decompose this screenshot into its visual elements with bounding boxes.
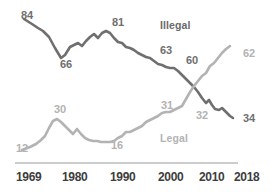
x-tick-2018: 2018	[234, 171, 260, 183]
value-label-illegal-2018: 34	[243, 113, 255, 124]
x-tick-1980: 1980	[62, 171, 88, 183]
x-tick-1969: 1969	[16, 171, 42, 183]
value-label-illegal-1969: 84	[21, 10, 33, 21]
value-label-illegal-1978: 66	[60, 59, 72, 70]
series-label-legal: Legal	[160, 133, 188, 144]
value-label-legal-2018: 62	[243, 48, 255, 59]
line-chart-plot	[0, 0, 275, 194]
value-label-legal-1979: 30	[54, 104, 66, 115]
series-line-legal	[22, 46, 230, 150]
chart-container: 84 66 81 63 60 34 12 30 16 31 32 62 Ille…	[0, 0, 275, 194]
x-tick-2010: 2010	[199, 171, 225, 183]
value-label-illegal-2001: 63	[160, 45, 172, 56]
series-label-illegal: Illegal	[160, 20, 190, 31]
value-label-legal-1969: 12	[16, 143, 28, 154]
value-label-legal-2002: 31	[161, 100, 173, 111]
value-label-illegal-2004: 60	[186, 55, 198, 66]
value-label-legal-1991: 16	[111, 140, 123, 151]
x-tick-1990: 1990	[110, 171, 136, 183]
value-label-illegal-1989: 81	[112, 17, 124, 28]
x-tick-2000: 2000	[158, 171, 184, 183]
value-label-legal-2008: 32	[196, 110, 208, 121]
